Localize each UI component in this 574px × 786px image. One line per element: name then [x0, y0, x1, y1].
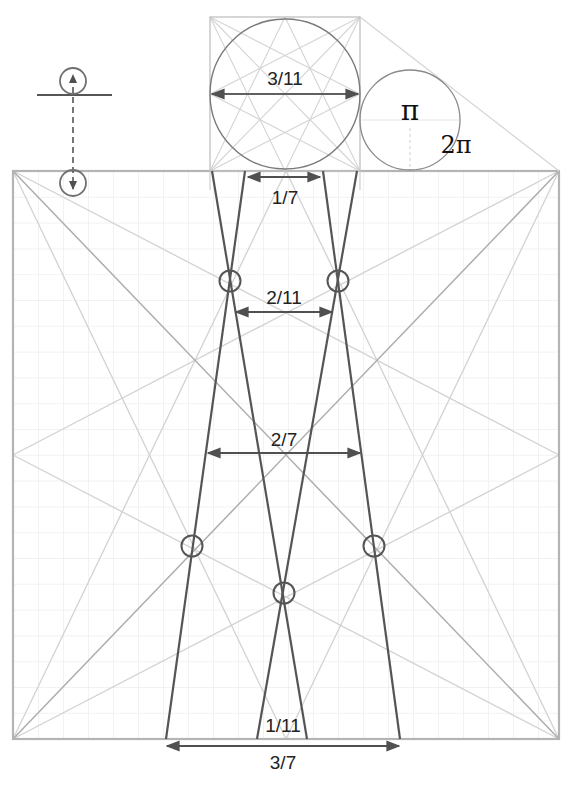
label-pi: π: [401, 94, 419, 127]
small-square: 3/11: [210, 17, 360, 171]
arrow-up-icon: [69, 74, 77, 83]
label-3-11: 3/11: [267, 68, 303, 89]
main-square: [13, 171, 559, 739]
label-1-7: 1/7: [272, 187, 298, 208]
label-2-11: 2/11: [266, 287, 302, 308]
pi-circle: π 2π: [360, 70, 472, 170]
label-1-11: 1/11: [265, 715, 301, 736]
geometric-construction-diagram: 3/11 π 2π 1/7 2/11 2/7 1/11 3/7: [0, 0, 574, 786]
label-2pi: 2π: [440, 131, 471, 159]
label-2-7: 2/7: [271, 429, 297, 450]
label-3-7: 3/7: [270, 752, 296, 773]
